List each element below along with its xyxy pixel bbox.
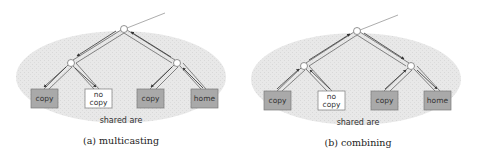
shared-area-ellipse [251, 33, 461, 125]
svg-text:copy: copy [142, 94, 160, 103]
cache-box-home: home [191, 89, 218, 108]
cache-box-home: home [424, 91, 451, 110]
root-node [354, 28, 361, 35]
cache-box-copy: copy [371, 91, 398, 110]
cache-box-no-copy: no copy [318, 91, 345, 110]
svg-text:copy: copy [90, 98, 108, 107]
svg-text:copy: copy [36, 94, 54, 103]
svg-text:home: home [194, 94, 216, 103]
svg-text:copy: copy [376, 96, 394, 105]
root-uplink [127, 13, 165, 28]
svg-text:home: home [427, 96, 449, 105]
panel-combining: copy no copy copy home shared are (b) co… [251, 15, 461, 148]
left-mid-node [301, 63, 308, 70]
cache-box-copy: copy [264, 91, 291, 110]
diagram-canvas: copy no copy copy home shared are (a) mu… [0, 0, 484, 158]
svg-text:copy: copy [269, 96, 287, 105]
panel-caption: (a) multicasting [83, 135, 159, 146]
shared-area-ellipse [16, 31, 226, 123]
root-uplink [360, 15, 398, 30]
svg-text:copy: copy [323, 100, 341, 109]
cache-box-copy: copy [31, 89, 58, 108]
shared-area-label: shared are [100, 116, 143, 125]
cache-box-copy: copy [137, 89, 164, 108]
root-node [121, 26, 128, 33]
shared-area-label: shared are [337, 118, 380, 127]
panel-multicasting: copy no copy copy home shared are (a) mu… [16, 13, 226, 146]
right-mid-node [174, 60, 181, 67]
right-mid-node [408, 63, 415, 70]
panel-caption: (b) combining [324, 137, 391, 148]
cache-box-no-copy: no copy [85, 89, 112, 108]
left-mid-node [68, 60, 75, 67]
